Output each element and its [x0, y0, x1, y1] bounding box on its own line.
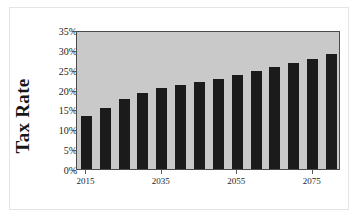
y-tick-label-35: 35%	[37, 26, 77, 37]
bar-rect	[213, 79, 224, 169]
x-tick-mark	[236, 170, 237, 174]
bar-rect	[194, 82, 205, 169]
bar-2075	[303, 32, 322, 169]
x-tick-label-2035: 2035	[138, 176, 184, 186]
bar-rect	[269, 67, 280, 169]
x-tick-mark	[312, 170, 313, 174]
bar-2070	[284, 32, 303, 169]
y-tick-label-10: 10%	[37, 125, 77, 136]
bar-2050	[209, 32, 228, 169]
bar-2015	[77, 32, 96, 169]
bar-rect	[81, 116, 92, 169]
bar-rect	[119, 99, 130, 169]
y-tick-label-25: 25%	[37, 65, 77, 76]
y-tick-label-5: 5%	[37, 145, 77, 156]
x-tick-mark	[85, 170, 86, 174]
bar-rect	[288, 63, 299, 169]
y-tick-label-20: 20%	[37, 85, 77, 96]
bar-rect	[251, 71, 262, 169]
bar-2020	[96, 32, 115, 169]
x-tick-mark	[161, 170, 162, 174]
x-tick-label-2075: 2075	[289, 176, 335, 186]
bar-rect	[326, 54, 337, 169]
x-tick-label-2015: 2015	[62, 176, 108, 186]
bar-rect	[100, 108, 111, 169]
bar-2065	[266, 32, 285, 169]
bar-rect	[156, 88, 167, 169]
x-tick-label-2055: 2055	[213, 176, 259, 186]
bar-2045	[190, 32, 209, 169]
bar-2035	[152, 32, 171, 169]
y-tick-label-30: 30%	[37, 45, 77, 56]
bar-2055	[228, 32, 247, 169]
bar-rect	[232, 75, 243, 169]
y-tick-label-15: 15%	[37, 105, 77, 116]
bar-2060	[247, 32, 266, 169]
bar-series	[77, 32, 339, 169]
bar-2040	[171, 32, 190, 169]
bar-rect	[307, 59, 318, 169]
bar-2030	[134, 32, 153, 169]
bar-2080	[322, 32, 341, 169]
chart-figure: Tax Rate 0%5%10%15%20%25%30%35% 20152035…	[0, 0, 359, 219]
bar-rect	[137, 93, 148, 169]
bar-2025	[115, 32, 134, 169]
bar-rect	[175, 85, 186, 169]
y-axis-title: Tax Rate	[12, 61, 34, 171]
y-tick-label-0: 0%	[37, 165, 77, 176]
y-tick-mark	[72, 170, 76, 171]
plot-area	[76, 31, 340, 170]
